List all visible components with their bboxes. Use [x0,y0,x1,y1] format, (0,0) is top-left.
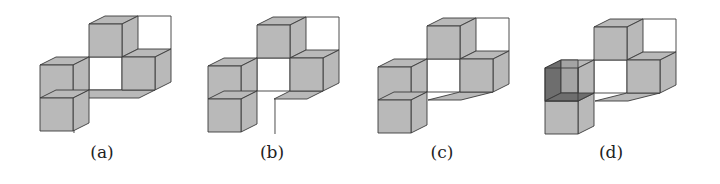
empty-center-square [89,57,122,90]
cube-front-face [122,57,155,90]
cube-front-face [89,24,122,57]
cube-front-face [460,59,493,92]
panel-label-b: (b) [252,142,292,162]
cube-front-face [627,60,660,93]
floor-strip [595,93,660,101]
empty-slot-outline [476,18,509,51]
panel-c [378,18,509,133]
cube-front-face [427,26,460,59]
panel-b [208,17,339,134]
panel-label-d: (d) [591,142,631,162]
cube-front-face [545,101,578,134]
panel-d [545,19,676,134]
cube-front-face [257,25,290,58]
cube-front-face [594,27,627,60]
cube-front-face [208,99,241,132]
cube-front-face [40,98,73,131]
panel-a [40,16,171,133]
floor-strip [274,91,323,99]
empty-center-square [594,60,627,93]
cube-front-face [290,58,323,91]
cube-front-face [378,100,411,133]
empty-center-square [427,59,460,92]
empty-slot-outline [306,17,339,50]
panel-label-a: (a) [82,142,122,162]
panel-label-c: (c) [422,142,462,162]
empty-center-square [257,58,290,91]
cube-inner-back-wall [561,60,578,93]
empty-slot-outline [138,16,171,49]
floor-strip [428,92,493,100]
empty-slot-outline [643,19,676,52]
